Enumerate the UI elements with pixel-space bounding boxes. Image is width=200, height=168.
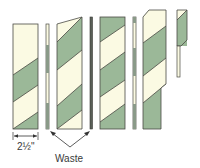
waste-strip-2 [90, 17, 93, 129]
waste-strip-3 [133, 17, 136, 129]
strip-3 [100, 17, 125, 129]
strip-1 [13, 24, 38, 140]
waste-callout: Waste [50, 131, 90, 164]
waste-label: Waste [55, 153, 83, 164]
strip-4 [143, 10, 166, 129]
strip-cutting-diagram: 2½" Waste [0, 0, 200, 168]
waste-strip-1 [46, 24, 49, 129]
width-dimension: 2½" [13, 132, 38, 152]
width-dimension-label: 2½" [17, 141, 35, 152]
strip-2 [57, 17, 82, 129]
strip-5 [177, 10, 187, 77]
